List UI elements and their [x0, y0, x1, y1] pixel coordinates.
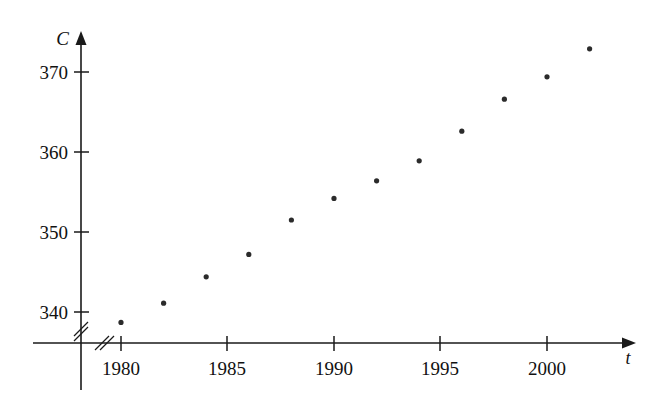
x-tick-labels: 1980 1985 1990 1995 2000	[102, 358, 566, 379]
chart-canvas: 370 360 350 340 1980 1985 1990 1995 2000…	[0, 0, 651, 400]
x-tick-label-1995: 1995	[421, 358, 459, 379]
data-point	[246, 252, 251, 257]
x-tick-label-1980: 1980	[102, 358, 140, 379]
x-tick-label-2000: 2000	[528, 358, 566, 379]
data-point	[459, 129, 464, 134]
data-points-group	[118, 46, 592, 325]
y-tick-label-370: 370	[40, 62, 69, 83]
y-tick-label-340: 340	[40, 302, 69, 323]
data-point	[374, 178, 379, 183]
x-axis-label: t	[625, 348, 631, 368]
data-point	[417, 158, 422, 163]
data-point	[587, 46, 592, 51]
y-tick-label-360: 360	[40, 142, 69, 163]
data-point	[331, 196, 336, 201]
scatter-plot-figure: 370 360 350 340 1980 1985 1990 1995 2000…	[0, 0, 651, 400]
y-axis-arrowhead	[76, 31, 87, 45]
axis-break-marks	[74, 322, 114, 350]
data-point	[544, 74, 549, 79]
data-point	[118, 320, 123, 325]
data-point	[204, 274, 209, 279]
data-point	[161, 301, 166, 306]
y-axis-label: C	[56, 28, 69, 49]
x-tick-label-1990: 1990	[315, 358, 353, 379]
data-point	[289, 217, 294, 222]
x-axis-arrowhead	[622, 338, 636, 349]
y-tick-label-350: 350	[40, 222, 69, 243]
data-point	[502, 97, 507, 102]
y-tick-labels: 370 360 350 340	[40, 62, 69, 323]
x-tick-label-1985: 1985	[208, 358, 246, 379]
